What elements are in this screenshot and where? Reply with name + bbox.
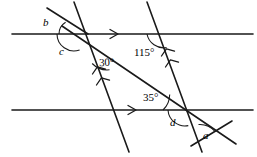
left-transversal (74, 2, 129, 152)
angle-label-d: d (170, 117, 176, 128)
ray-forming-angle-a (191, 121, 232, 146)
angle-label-b: b (43, 17, 49, 28)
angle-label-35: 35° (143, 92, 158, 103)
angle-label-30: 30° (99, 57, 115, 69)
angle-label-115: 115° (134, 47, 155, 58)
angle-label-a: a (203, 130, 209, 141)
geometry-figure: b c 30° 115° 35° d a (0, 0, 257, 157)
angle-label-c: c (59, 46, 64, 57)
main-diagonal-transversal (62, 26, 236, 144)
right-transversal (147, 2, 202, 152)
geometry-diagram-canvas (0, 0, 257, 157)
